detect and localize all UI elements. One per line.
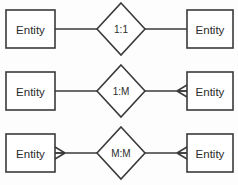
- crow-foot-right-many-to-many: [177, 147, 187, 159]
- crow-foot-left-many-to-many: [55, 147, 65, 159]
- entity-label-right-many-to-many: Entity: [196, 148, 225, 160]
- crow-foot-right-one-to-many: [177, 85, 187, 97]
- relationship-label-many-to-many: M:M: [111, 148, 130, 159]
- entity-label-right-one-to-one: Entity: [196, 24, 225, 36]
- relationship-row-one-to-one: Entity 1:1 Entity: [6, 3, 233, 55]
- entity-label-right-one-to-many: Entity: [196, 86, 225, 98]
- entity-label-left-one-to-one: Entity: [16, 24, 45, 36]
- relationship-label-one-to-many: 1:M: [113, 86, 130, 97]
- relationship-row-many-to-many: Entity M:M Entity: [6, 127, 233, 179]
- relationship-label-one-to-one: 1:1: [114, 24, 128, 35]
- diagram-svg: Entity 1:1 Entity Entity 1:M Entity Enti…: [0, 0, 238, 185]
- relationship-row-one-to-many: Entity 1:M Entity: [6, 65, 233, 117]
- er-cardinality-diagram: Entity 1:1 Entity Entity 1:M Entity Enti…: [0, 0, 238, 185]
- entity-label-left-one-to-many: Entity: [16, 86, 45, 98]
- entity-label-left-many-to-many: Entity: [16, 148, 45, 160]
